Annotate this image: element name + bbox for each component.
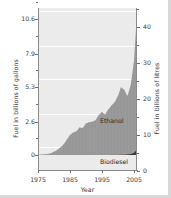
x-tick-label: 2005 bbox=[121, 176, 147, 183]
y-tick-label-right: 40 bbox=[143, 23, 169, 30]
x-tick-label: 1985 bbox=[57, 176, 83, 183]
y-minor-tick-left bbox=[36, 70, 38, 71]
y-tick-label-left: 0 bbox=[9, 151, 35, 158]
chart-figure: Fuel in billions of gallons Fuel in bill… bbox=[0, 0, 171, 198]
x-axis-title: Year bbox=[38, 186, 137, 194]
y-minor-tick-left bbox=[36, 138, 38, 139]
series-areas bbox=[38, 8, 137, 170]
y-minor-tick-left bbox=[36, 36, 38, 37]
y-minor-tick-right bbox=[137, 81, 139, 82]
y-tick-mark-right bbox=[137, 63, 140, 64]
x-tick-label: 1975 bbox=[25, 176, 51, 183]
x-tick-mark bbox=[134, 170, 135, 173]
y-minor-tick-left bbox=[36, 2, 38, 3]
y-tick-label-left: 10.6 bbox=[9, 15, 35, 22]
y-tick-mark-right bbox=[137, 135, 140, 136]
y-tick-mark-left bbox=[35, 122, 38, 123]
y-minor-tick-right bbox=[137, 153, 139, 154]
y-tick-mark-right bbox=[137, 171, 140, 172]
y-minor-tick-right bbox=[137, 45, 139, 46]
y-tick-label-right: 30 bbox=[143, 59, 169, 66]
y-minor-tick-right bbox=[137, 9, 139, 10]
y-minor-tick-right bbox=[137, 117, 139, 118]
x-tick-mark bbox=[70, 170, 71, 173]
x-tick-mark bbox=[38, 170, 39, 173]
plot-frame-right bbox=[136, 8, 137, 171]
y-tick-mark-right bbox=[137, 27, 140, 28]
y-tick-label-left: 5.3 bbox=[9, 83, 35, 90]
y-tick-label-right: 10 bbox=[143, 131, 169, 138]
series-label-ethanol: Ethanol bbox=[100, 117, 123, 124]
x-tick-mark bbox=[102, 170, 103, 173]
y-tick-mark-left bbox=[35, 19, 38, 20]
y-tick-mark-left bbox=[35, 54, 38, 55]
series-label-biodiesel: Biodiesel bbox=[100, 158, 128, 165]
y-tick-mark-left bbox=[35, 87, 38, 88]
y-tick-mark-left bbox=[35, 155, 38, 156]
plot-area bbox=[38, 8, 137, 170]
y-minor-tick-left bbox=[36, 104, 38, 105]
x-tick-label: 1995 bbox=[89, 176, 115, 183]
y-tick-label-left: 2.6 bbox=[9, 118, 35, 125]
page-edge-right bbox=[168, 0, 171, 198]
y-tick-label-right: 20 bbox=[143, 95, 169, 102]
y-axis-title-left: Fuel in billions of gallons bbox=[12, 54, 19, 144]
y-tick-mark-right bbox=[137, 99, 140, 100]
y-tick-label-right: 0 bbox=[143, 167, 169, 174]
page-edge-bottom bbox=[0, 195, 171, 198]
y-tick-label-left: 7.9 bbox=[9, 50, 35, 57]
area-ethanol bbox=[38, 14, 137, 155]
